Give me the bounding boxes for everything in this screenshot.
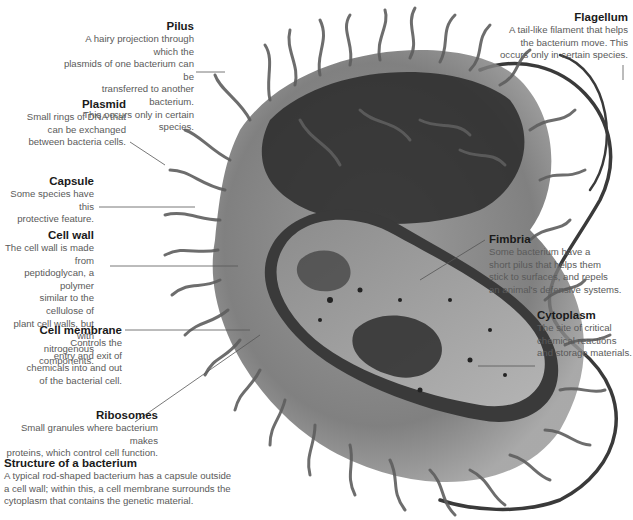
label-text: The site of critical chemical reactions … — [537, 322, 633, 360]
label-cell-membrane: Cell membrane Controls the entry and exi… — [20, 323, 122, 387]
label-text: Some species have this protective featur… — [0, 188, 94, 226]
diagram-description: A typical rod-shaped bacterium has a cap… — [4, 470, 274, 508]
label-text: Some bacterium have a short pilus that h… — [489, 246, 633, 296]
label-ribosomes: Ribosomes Small granules where bacterium… — [0, 408, 158, 460]
label-title: Ribosomes — [0, 408, 158, 422]
label-capsule: Capsule Some species have this protectiv… — [0, 174, 94, 226]
label-title: Plasmid — [20, 97, 126, 111]
label-text: A tail-like filament that helps the bact… — [498, 24, 628, 62]
label-title: Cell membrane — [20, 323, 122, 337]
diagram-title: Structure of a bacterium — [4, 456, 274, 470]
label-title: Fimbria — [489, 232, 633, 246]
label-cytoplasm: Cytoplasm The site of critical chemical … — [537, 308, 633, 360]
label-title: Flagellum — [498, 10, 628, 24]
label-title: Capsule — [0, 174, 94, 188]
label-title: Cell wall — [0, 228, 94, 242]
label-text: Small granules where bacterium makes pro… — [0, 422, 158, 460]
label-title: Cytoplasm — [537, 308, 633, 322]
diagram-caption: Structure of a bacterium A typical rod-s… — [4, 456, 274, 508]
label-title: Pilus — [60, 19, 194, 33]
label-fimbria: Fimbria Some bacterium have a short pilu… — [489, 232, 633, 296]
label-flagellum: Flagellum A tail-like filament that help… — [498, 10, 628, 62]
label-text: Controls the entry and exit of chemicals… — [20, 337, 122, 387]
label-text: Small rings of DNA that can be exchanged… — [20, 111, 126, 149]
label-plasmid: Plasmid Small rings of DNA that can be e… — [20, 97, 126, 149]
